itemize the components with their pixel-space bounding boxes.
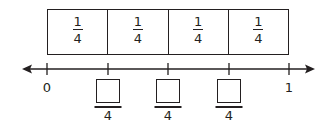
denominator-3: 4 [225,109,233,122]
denominator-1: 4 [104,109,112,122]
answer-box-numerator-1[interactable] [96,79,120,103]
label-one: 1 [285,81,293,94]
denominator-2: 4 [164,109,172,122]
label-zero: 0 [43,81,51,94]
answer-box-numerator-2[interactable] [156,79,180,103]
answer-box-numerator-3[interactable] [217,79,241,103]
